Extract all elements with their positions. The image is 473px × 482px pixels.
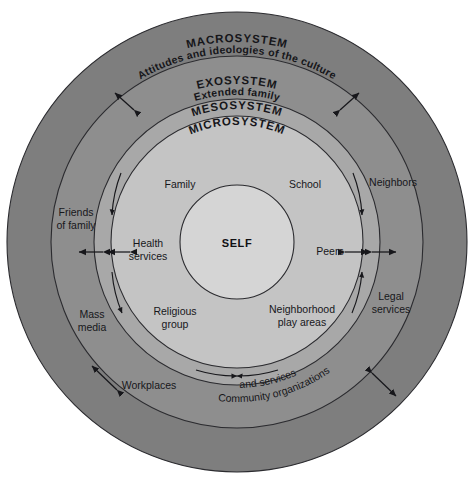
micro-node-peers: Peers <box>316 245 343 257</box>
ecological-systems-diagram: MACROSYSTEM Attitudes and ideologies of … <box>0 0 473 482</box>
neighborhood-play-line1: Neighborhood <box>269 303 335 315</box>
exo-node-friends-of-family: Friends of family <box>56 206 96 231</box>
legal-services-line1: Legal <box>378 290 404 302</box>
self-label: SELF <box>222 237 253 249</box>
exo-node-neighbors: Neighbors <box>369 176 417 188</box>
friends-of-family-line1: Friends <box>58 206 93 218</box>
micro-node-school: School <box>289 178 321 190</box>
legal-services-line2: services <box>372 303 411 315</box>
friends-of-family-line2: of family <box>56 219 96 231</box>
religious-group-line2: group <box>162 318 189 330</box>
religious-group-line1: Religious <box>153 305 196 317</box>
exo-node-mass-media: Mass media <box>78 308 107 333</box>
health-services-line1: Health <box>133 237 164 249</box>
diagram-canvas: MACROSYSTEM Attitudes and ideologies of … <box>0 0 473 482</box>
micro-node-neighborhood-play-areas: Neighborhood play areas <box>269 303 335 328</box>
mass-media-line2: media <box>78 321 107 333</box>
micro-node-family: Family <box>165 178 197 190</box>
exo-node-workplaces: Workplaces <box>122 379 177 391</box>
mass-media-line1: Mass <box>79 308 104 320</box>
micro-node-health-services: Health services <box>129 237 168 262</box>
health-services-line2: services <box>129 250 168 262</box>
neighborhood-play-line2: play areas <box>278 316 326 328</box>
